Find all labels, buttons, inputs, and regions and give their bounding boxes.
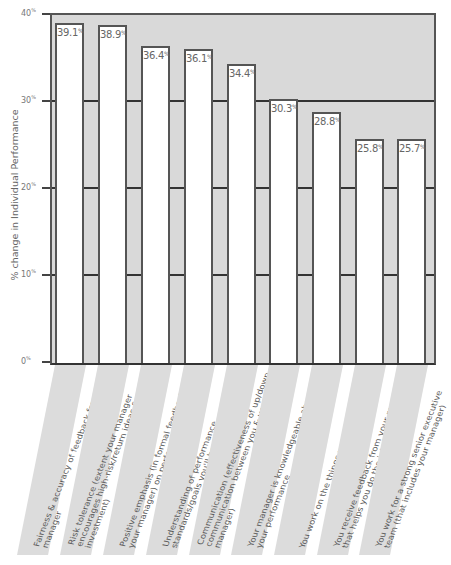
bar-value-label: 36.1%: [186, 53, 211, 64]
y-axis-label: % change in Individual Performance: [4, 100, 24, 290]
bar: 36.1%: [184, 49, 213, 363]
bar: 39.1%: [55, 23, 84, 363]
bar: 36.4%: [141, 46, 170, 363]
bar: 30.3%: [269, 99, 298, 363]
bar-value-label: 36.4%: [143, 50, 168, 61]
category-label: You work for a strong senior executive t…: [374, 369, 451, 549]
bar: 28.8%: [312, 112, 341, 363]
bar: 34.4%: [227, 64, 256, 363]
bar: 25.7%: [397, 139, 426, 363]
bar-value-label: 38.9%: [100, 29, 125, 40]
bar: 25.8%: [355, 139, 384, 363]
bar-value-label: 34.4%: [229, 68, 254, 79]
bar-value-label: 39.1%: [57, 27, 82, 38]
bar-value-label: 25.7%: [399, 143, 424, 154]
bar-value-label: 28.8%: [314, 116, 339, 127]
bar-value-label: 25.8%: [357, 143, 382, 154]
plot-area: 39.1%38.9%36.4%36.1%34.4%30.3%28.8%25.8%…: [50, 13, 436, 365]
y-axis-title: % change in Individual Performance: [9, 109, 20, 280]
bar-value-label: 30.3%: [271, 103, 296, 114]
bar: 38.9%: [98, 25, 127, 363]
